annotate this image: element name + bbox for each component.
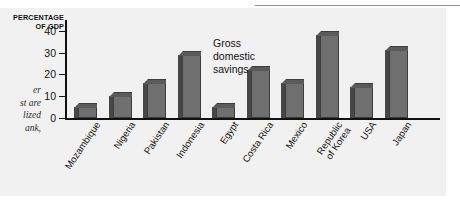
bar-top-face: [281, 79, 304, 84]
x-axis-category-labels: MozambiqueNigeriaPakistanIndonesiaEgyptC…: [68, 120, 448, 200]
bar-front-face: [389, 50, 408, 118]
x-axis-category-label: Indonesia: [174, 120, 206, 160]
y-tick-label: 10: [44, 90, 56, 102]
y-axis-line: [65, 20, 67, 120]
bar-front-face: [285, 83, 304, 118]
bar: [350, 83, 373, 118]
bar: [74, 103, 97, 118]
x-axis-category-label: Japan: [390, 120, 413, 147]
x-axis-category-label: Costa Rica: [240, 120, 275, 165]
x-axis-category-label: Pakistan: [142, 120, 171, 156]
bar: [143, 79, 166, 118]
y-tick-label: 20: [44, 68, 56, 80]
y-tick-label: 40: [44, 24, 56, 36]
bar-front-face: [182, 55, 201, 118]
gutter-line-4: ank,: [0, 122, 41, 135]
bar: [109, 92, 132, 118]
gutter-line-3: lized: [0, 109, 41, 122]
bar-front-face: [147, 83, 166, 118]
bar-front-face: [320, 35, 339, 118]
y-tick-mark: [59, 118, 66, 119]
bar-front-face: [354, 87, 373, 118]
bar: [281, 79, 304, 118]
x-axis-category-label: Republic of Korea: [315, 120, 353, 163]
bar-front-face: [251, 70, 270, 118]
x-axis-category-label: Egypt: [218, 120, 240, 146]
bar: [212, 103, 235, 118]
y-tick-mark: [59, 74, 66, 75]
bar-top-face: [316, 31, 339, 36]
y-tick-label: 30: [44, 46, 56, 58]
page-top-rule: [255, 5, 460, 6]
x-axis-category-label: Mexico: [284, 120, 310, 151]
gutter-line-1: er: [0, 84, 41, 97]
y-tick-mark: [59, 96, 66, 97]
bar-top-face: [385, 46, 408, 51]
gutter-line-2: st are: [0, 97, 41, 110]
y-tick-label: 0: [50, 112, 56, 124]
x-axis-category-label: USA: [359, 120, 379, 142]
gutter-body-text: er st are lized ank,: [0, 84, 44, 134]
figure-root: er st are lized ank, PERCENTAGE OF GDP 0…: [0, 0, 460, 204]
bar-front-face: [78, 107, 97, 118]
bar-front-face: [113, 96, 132, 118]
bar: [385, 46, 408, 118]
bar: [178, 51, 201, 118]
bar-top-face: [350, 83, 373, 88]
bar-top-face: [109, 92, 132, 97]
bar-top-face: [178, 51, 201, 56]
series-annotation: Gross domestic savings: [213, 37, 255, 76]
bar-top-face: [212, 103, 235, 108]
bar-top-face: [143, 79, 166, 84]
bar-front-face: [216, 107, 235, 118]
bar: [316, 31, 339, 118]
bar-top-face: [74, 103, 97, 108]
x-axis-category-label: Nigeria: [111, 120, 137, 151]
y-tick-mark: [59, 31, 66, 32]
y-tick-mark: [59, 53, 66, 54]
x-axis-category-label: Mozambique: [63, 120, 102, 171]
